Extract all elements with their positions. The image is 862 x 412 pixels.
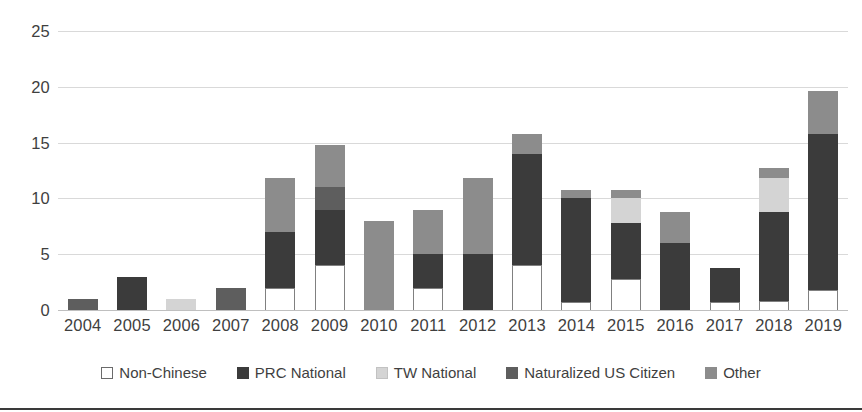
bar-segment-other bbox=[512, 134, 542, 154]
legend-label: Non-Chinese bbox=[119, 364, 207, 381]
bar-slot bbox=[206, 31, 255, 310]
bar-stack[interactable] bbox=[117, 277, 147, 310]
bar-segment-other bbox=[265, 178, 295, 232]
bar-stack[interactable] bbox=[463, 178, 493, 310]
legend-swatch-icon bbox=[376, 367, 388, 379]
bar-stack[interactable] bbox=[660, 212, 690, 310]
y-axis-tick-label: 0 bbox=[41, 301, 50, 320]
x-axis-tick-label: 2010 bbox=[354, 316, 403, 335]
bar-segment-prc bbox=[759, 212, 789, 301]
bar-segment-other bbox=[561, 190, 591, 199]
legend-item-other[interactable]: Other bbox=[705, 364, 761, 381]
bar-segment-nonchinese bbox=[759, 301, 789, 310]
x-axis-tick-label: 2008 bbox=[256, 316, 305, 335]
bar-segment-nonchinese bbox=[611, 279, 641, 310]
bar-segment-prc bbox=[660, 243, 690, 310]
bar-stack[interactable] bbox=[611, 190, 641, 311]
bar-segment-prc bbox=[611, 223, 641, 279]
bar-segment-natural bbox=[216, 288, 246, 310]
bar-stack[interactable] bbox=[808, 91, 838, 310]
chart-legend: Non-ChinesePRC NationalTW NationalNatura… bbox=[0, 364, 862, 381]
legend-label: Other bbox=[723, 364, 761, 381]
x-axis-tick-label: 2006 bbox=[157, 316, 206, 335]
x-axis-tick-label: 2019 bbox=[799, 316, 848, 335]
bar-segment-other bbox=[611, 190, 641, 199]
bar-segment-other bbox=[759, 168, 789, 178]
bar-stack[interactable] bbox=[512, 134, 542, 310]
bar-stack[interactable] bbox=[265, 178, 295, 310]
x-axis-tick-label: 2015 bbox=[601, 316, 650, 335]
stacked-bar-chart: 0510152025 20042005200620072008200920102… bbox=[0, 0, 862, 412]
gridline bbox=[58, 310, 848, 311]
bar-segment-tw bbox=[166, 299, 196, 310]
bar-segment-prc bbox=[265, 232, 295, 288]
bar-segment-prc bbox=[117, 277, 147, 310]
bar-stack[interactable] bbox=[364, 221, 394, 310]
x-axis-tick-label: 2013 bbox=[502, 316, 551, 335]
bar-stack[interactable] bbox=[315, 145, 345, 310]
bar-series-group bbox=[58, 31, 848, 310]
legend-item-prc[interactable]: PRC National bbox=[237, 364, 346, 381]
legend-label: PRC National bbox=[255, 364, 346, 381]
plot-area bbox=[58, 31, 848, 310]
bar-stack[interactable] bbox=[68, 299, 98, 310]
bar-segment-prc bbox=[808, 134, 838, 290]
legend-swatch-icon bbox=[705, 367, 717, 379]
bar-slot bbox=[107, 31, 156, 310]
bar-segment-prc bbox=[710, 268, 740, 303]
y-axis-tick-label: 25 bbox=[31, 22, 50, 41]
bar-segment-other bbox=[660, 212, 690, 243]
y-axis-tick-label: 10 bbox=[31, 189, 50, 208]
legend-swatch-icon bbox=[506, 367, 518, 379]
legend-item-nonchinese[interactable]: Non-Chinese bbox=[101, 364, 207, 381]
legend-label: TW National bbox=[394, 364, 477, 381]
bar-stack[interactable] bbox=[216, 288, 246, 310]
bar-slot bbox=[354, 31, 403, 310]
bar-segment-nonchinese bbox=[710, 302, 740, 310]
bar-segment-prc bbox=[561, 198, 591, 302]
x-axis-tick-label: 2009 bbox=[305, 316, 354, 335]
bar-stack[interactable] bbox=[710, 268, 740, 310]
bar-slot bbox=[552, 31, 601, 310]
y-axis-tick-label: 20 bbox=[31, 77, 50, 96]
legend-item-tw[interactable]: TW National bbox=[376, 364, 477, 381]
x-axis-tick-label: 2004 bbox=[58, 316, 107, 335]
bar-slot bbox=[651, 31, 700, 310]
bar-segment-nonchinese bbox=[561, 302, 591, 310]
y-axis-labels: 0510152025 bbox=[0, 31, 50, 310]
bar-segment-tw bbox=[759, 178, 789, 211]
y-axis-tick-label: 15 bbox=[31, 133, 50, 152]
x-axis-tick-label: 2005 bbox=[107, 316, 156, 335]
bar-segment-nonchinese bbox=[413, 288, 443, 310]
bar-slot bbox=[502, 31, 551, 310]
y-axis-tick-label: 5 bbox=[41, 245, 50, 264]
bar-stack[interactable] bbox=[166, 299, 196, 310]
legend-swatch-icon bbox=[237, 367, 249, 379]
x-axis-tick-label: 2017 bbox=[700, 316, 749, 335]
bar-segment-other bbox=[315, 145, 345, 187]
bar-segment-prc bbox=[315, 210, 345, 266]
bar-slot bbox=[700, 31, 749, 310]
bar-stack[interactable] bbox=[561, 190, 591, 311]
x-axis-tick-label: 2007 bbox=[206, 316, 255, 335]
bar-segment-prc bbox=[413, 254, 443, 287]
bar-slot bbox=[404, 31, 453, 310]
bar-segment-natural bbox=[315, 187, 345, 209]
x-axis-tick-label: 2016 bbox=[651, 316, 700, 335]
legend-label: Naturalized US Citizen bbox=[524, 364, 675, 381]
bar-stack[interactable] bbox=[759, 168, 789, 310]
bar-slot bbox=[601, 31, 650, 310]
bar-segment-prc bbox=[512, 154, 542, 266]
legend-item-natural[interactable]: Naturalized US Citizen bbox=[506, 364, 675, 381]
bar-segment-other bbox=[364, 221, 394, 310]
bar-slot bbox=[256, 31, 305, 310]
x-axis-labels: 2004200520062007200820092010201120122013… bbox=[58, 316, 848, 335]
bar-segment-other bbox=[463, 178, 493, 254]
bottom-divider bbox=[0, 408, 862, 410]
bar-segment-nonchinese bbox=[315, 265, 345, 310]
bar-slot bbox=[453, 31, 502, 310]
bar-segment-prc bbox=[463, 254, 493, 310]
bar-stack[interactable] bbox=[413, 210, 443, 310]
bar-segment-other bbox=[413, 210, 443, 255]
bar-segment-nonchinese bbox=[512, 265, 542, 310]
